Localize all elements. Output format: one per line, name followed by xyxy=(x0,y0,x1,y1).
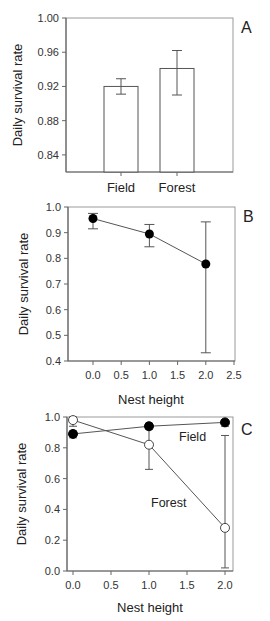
y-tick-label: 0.84 xyxy=(38,149,59,161)
y-tick-label: 1.00 xyxy=(38,12,59,24)
panel-a-bar-chart: 0.840.880.920.961.00FieldForest xyxy=(38,12,233,195)
x-tick-label: 1.0 xyxy=(142,369,157,381)
x-tick-label: 0.0 xyxy=(65,579,80,591)
data-point-marker xyxy=(89,214,98,223)
panel-a-letter: A xyxy=(241,19,252,36)
panel-c-x-axis-title: Nest height xyxy=(117,600,183,615)
panel-b-y-axis-title: Daily survival rate xyxy=(16,233,31,336)
data-point-marker-field xyxy=(69,429,78,438)
x-tick-label: 2.5 xyxy=(226,369,241,381)
y-tick-label: 0.6 xyxy=(46,304,61,316)
y-tick-label: 0.88 xyxy=(38,115,59,127)
x-tick-label: 0.5 xyxy=(103,579,118,591)
panel-a-y-axis-title: Daily survival rate xyxy=(10,44,25,147)
data-point-marker-field xyxy=(221,418,230,427)
figure: 0.840.880.920.961.00FieldForest A Daily … xyxy=(0,0,270,621)
x-tick-label: 1.5 xyxy=(170,369,185,381)
data-point-marker-forest xyxy=(145,440,154,449)
plot-frame xyxy=(66,18,233,172)
data-point-marker-forest xyxy=(221,523,230,532)
y-tick-label: 0.96 xyxy=(38,46,59,58)
y-tick-label: 0.92 xyxy=(38,80,59,92)
y-tick-label: 0.4 xyxy=(45,503,60,515)
panel-b-x-axis-title: Nest height xyxy=(118,392,184,407)
y-tick-label: 0.6 xyxy=(45,473,60,485)
y-tick-label: 1.0 xyxy=(45,411,60,423)
x-tick-label: 0.5 xyxy=(114,369,129,381)
panel-b-letter: B xyxy=(243,208,254,225)
panel-b-line-chart: 0.40.50.60.70.80.91.00.00.51.01.52.02.5 xyxy=(46,201,242,381)
x-tick-label: 1.5 xyxy=(179,579,194,591)
data-point-marker xyxy=(201,259,210,268)
x-tick-label: 1.0 xyxy=(141,579,156,591)
bar-field xyxy=(104,86,138,172)
y-tick-label: 0.2 xyxy=(45,534,60,546)
y-tick-label: 0.9 xyxy=(46,227,61,239)
x-category-label: Forest xyxy=(159,180,196,195)
x-tick-label: 2.0 xyxy=(198,369,213,381)
y-tick-label: 0.0 xyxy=(45,565,60,577)
y-tick-label: 0.4 xyxy=(46,355,61,367)
y-tick-label: 0.7 xyxy=(46,278,61,290)
data-point-marker-forest xyxy=(69,416,78,425)
y-tick-label: 0.5 xyxy=(46,329,61,341)
x-category-label: Field xyxy=(107,180,135,195)
data-point-marker xyxy=(145,229,154,238)
panel-c-y-axis-title: Daily survival rate xyxy=(14,443,29,546)
x-tick-label: 2.0 xyxy=(217,579,232,591)
y-tick-label: 1.0 xyxy=(46,201,61,213)
y-tick-label: 0.8 xyxy=(45,442,60,454)
data-point-marker-field xyxy=(145,422,154,431)
panel-c-letter: C xyxy=(241,421,253,438)
panel-c-field-label: Field xyxy=(179,430,206,444)
x-tick-label: 0.0 xyxy=(85,369,100,381)
y-tick-label: 0.8 xyxy=(46,252,61,264)
panel-c-forest-label: Forest xyxy=(151,496,187,510)
